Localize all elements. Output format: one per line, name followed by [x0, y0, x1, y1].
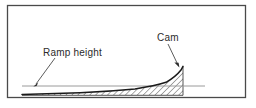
cam-ramp-height-figure: Ramp height Cam — [0, 0, 256, 108]
ramp-height-label: Ramp height — [43, 47, 102, 58]
cam-label: Cam — [157, 32, 179, 43]
diagram-canvas: Ramp height Cam — [0, 0, 256, 108]
